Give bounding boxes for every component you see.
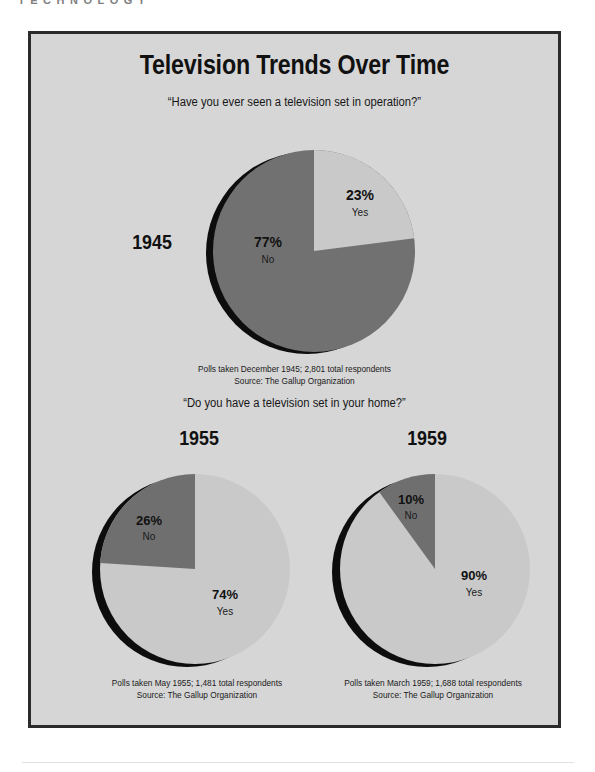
question-label-2: “Do you have a television set in your ho… (57, 396, 531, 410)
year-label-1959: 1959 (393, 426, 461, 450)
pie-svg-1955: 26% No 74% Yes (91, 468, 305, 674)
pie-svg-1959: 10% No 90% Yes (331, 468, 545, 674)
running-head: TECHNOLOGY (18, 0, 151, 6)
pie-value-yes: 90% (461, 568, 487, 583)
question-label-1: “Have you ever seen a television set in … (57, 95, 531, 109)
pie-label-no: No (262, 254, 275, 265)
year-label-1955: 1955 (165, 426, 233, 450)
page-footer-rule (22, 762, 574, 763)
figure-frame: Television Trends Over Time “Have you ev… (28, 31, 561, 728)
page-title: Television Trends Over Time (68, 50, 521, 81)
pie-chart-1955: 26% No 74% Yes (91, 468, 305, 674)
source-line-1: Polls taken March 1959; 1,688 total resp… (313, 678, 552, 690)
pie-label-no: No (143, 531, 156, 542)
pie-chart-1945: 23% Yes 77% No (203, 142, 423, 360)
source-line-1: Polls taken May 1955; 1,481 total respon… (77, 678, 316, 690)
pie-value-no: 10% (398, 492, 424, 507)
source-caption-1945: Polls taken December 1945; 2,801 total r… (31, 364, 558, 387)
source-line-2: Source: The Gallup Organization (77, 690, 316, 702)
source-line-1: Polls taken December 1945; 2,801 total r… (52, 364, 537, 376)
source-line-2: Source: The Gallup Organization (52, 376, 537, 388)
pie-value-no: 77% (254, 234, 283, 250)
pie-svg-1945: 23% Yes 77% No (203, 142, 423, 360)
year-label-1945: 1945 (122, 230, 182, 254)
pie-value-yes: 23% (346, 187, 375, 203)
pie-value-no: 26% (136, 513, 162, 528)
pie-label-yes: Yes (466, 587, 482, 598)
pie-label-no: No (405, 510, 418, 521)
pie-label-yes: Yes (352, 207, 368, 218)
source-line-2: Source: The Gallup Organization (313, 690, 552, 702)
chart-block-1945: 1945 23% Yes 77% No Polls taken December… (31, 138, 558, 388)
pie-value-yes: 74% (212, 587, 238, 602)
pie-chart-1959: 10% No 90% Yes (331, 468, 545, 674)
source-caption-1955: Polls taken May 1955; 1,481 total respon… (67, 678, 327, 701)
pie-label-yes: Yes (217, 606, 233, 617)
source-caption-1959: Polls taken March 1959; 1,688 total resp… (303, 678, 563, 701)
